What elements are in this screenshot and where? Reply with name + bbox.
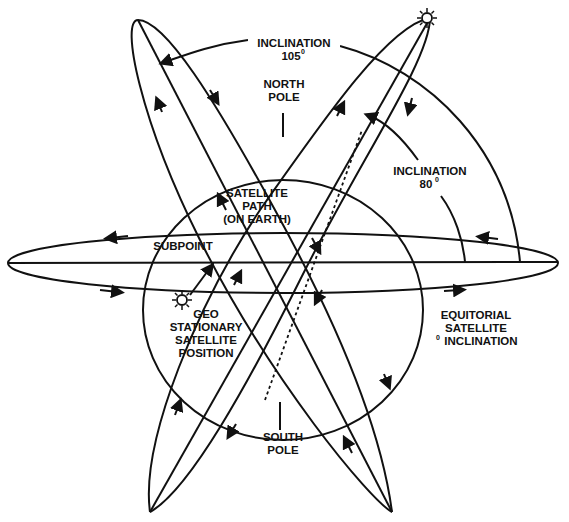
label-equatorial: EQUITORIAL SATELLITE 0 INCLINATION <box>436 309 518 347</box>
svg-text:EQUITORIAL: EQUITORIAL <box>441 309 512 321</box>
satellite-sun-icon-top <box>417 8 437 28</box>
svg-text:INCLINATION: INCLINATION <box>444 335 517 347</box>
svg-text:SOUTH: SOUTH <box>263 431 303 443</box>
svg-text:PATH: PATH <box>242 200 272 212</box>
label-subpoint: SUBPOINT <box>153 240 212 252</box>
svg-text:INCLINATION: INCLINATION <box>393 165 466 177</box>
svg-text:SATELLITE: SATELLITE <box>226 187 288 199</box>
svg-text:SUBPOINT: SUBPOINT <box>153 240 212 252</box>
svg-text:INCLINATION: INCLINATION <box>257 37 330 49</box>
svg-text:STATIONARY: STATIONARY <box>170 321 243 333</box>
svg-text:POLE: POLE <box>267 444 299 456</box>
svg-text:(ON EARTH): (ON EARTH) <box>223 213 291 225</box>
svg-text:0: 0 <box>435 176 439 183</box>
svg-text:POSITION: POSITION <box>179 347 234 359</box>
label-inclination-105: INCLINATION 105 0 <box>248 34 340 62</box>
label-geo-stationary: GEO STATIONARY SATELLITE POSITION <box>170 308 243 359</box>
equator-line <box>8 262 558 263</box>
svg-text:GEO: GEO <box>193 308 219 320</box>
svg-text:0: 0 <box>301 48 305 55</box>
orbit-diagram: INCLINATION 105 0 NORTH POLE INCLINATION… <box>0 0 569 522</box>
svg-text:80: 80 <box>420 178 433 190</box>
svg-text:105: 105 <box>281 50 301 62</box>
svg-text:SATELLITE: SATELLITE <box>445 322 507 334</box>
svg-text:POLE: POLE <box>268 91 300 103</box>
svg-text:0: 0 <box>436 334 440 341</box>
satellite-sun-icon-geo <box>172 290 192 310</box>
svg-text:SATELLITE: SATELLITE <box>175 334 237 346</box>
label-north-pole: NORTH POLE <box>264 78 305 103</box>
label-inclination-80: INCLINATION 80 0 <box>393 165 466 190</box>
svg-text:NORTH: NORTH <box>264 78 305 90</box>
label-south-pole: SOUTH POLE <box>263 431 303 456</box>
